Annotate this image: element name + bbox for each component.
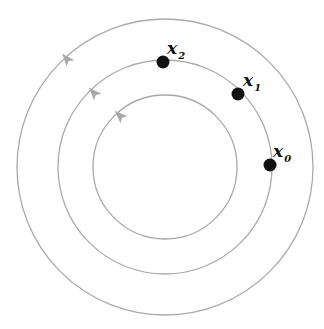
inner-orbit-arrow-icon [111,107,127,123]
label-x1: x1 [242,70,261,93]
label-x2: x2 [166,38,185,61]
label-x0: x0 [272,141,291,164]
orbit-diagram: x0 x1 x2 [0,0,324,329]
diagram-canvas: x0 x1 x2 [0,0,324,329]
inner-orbit [93,95,237,239]
